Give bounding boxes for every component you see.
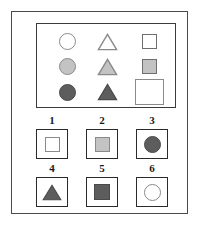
matrix-cell-r2c3	[131, 54, 167, 79]
white-triangle-icon	[97, 33, 118, 51]
option-4-number: 4	[34, 163, 70, 175]
option-2-box[interactable]	[86, 129, 118, 159]
matrix-cell-r3c2	[89, 79, 125, 105]
option-2[interactable]: 2	[84, 115, 120, 159]
light-gray-triangle-icon	[97, 58, 118, 76]
option-6[interactable]: 6	[134, 163, 170, 207]
option-5-box[interactable]	[86, 177, 118, 207]
matrix-cell-r1c2	[89, 29, 125, 54]
dark-gray-circle-icon	[144, 136, 161, 153]
white-square-icon	[142, 34, 157, 49]
option-3-box[interactable]	[136, 129, 168, 159]
matrix-cell-r2c2	[89, 54, 125, 79]
dark-gray-triangle-icon	[97, 83, 118, 101]
option-5[interactable]: 5	[84, 163, 120, 207]
option-4[interactable]: 4	[34, 163, 70, 207]
option-1-number: 1	[34, 115, 70, 127]
stimulus-matrix	[36, 23, 176, 108]
option-5-number: 5	[84, 163, 120, 175]
option-3[interactable]: 3	[134, 115, 170, 159]
matrix-cell-r1c1	[49, 29, 85, 54]
option-6-number: 6	[134, 163, 170, 175]
matrix-cell-r3c3-answer-slot[interactable]	[131, 79, 167, 105]
option-6-box[interactable]	[136, 177, 168, 207]
outer-frame: 1 2 3 4	[11, 11, 188, 214]
white-circle-icon	[144, 184, 161, 201]
dark-gray-square-icon	[94, 184, 110, 200]
light-gray-circle-icon	[59, 58, 76, 75]
option-3-number: 3	[134, 115, 170, 127]
option-1[interactable]: 1	[34, 115, 70, 159]
option-4-box[interactable]	[36, 177, 68, 207]
matrix-cell-r3c1	[49, 79, 85, 105]
white-square-icon	[45, 137, 60, 152]
dark-gray-triangle-icon	[42, 184, 62, 201]
puzzle-page: 1 2 3 4	[0, 0, 198, 225]
matrix-cell-r2c1	[49, 54, 85, 79]
empty-answer-box[interactable]	[135, 79, 164, 105]
dark-gray-circle-icon	[59, 84, 76, 101]
light-gray-square-icon	[142, 59, 157, 74]
option-2-number: 2	[84, 115, 120, 127]
light-gray-square-icon	[95, 137, 110, 152]
answer-options: 1 2 3 4	[29, 115, 177, 207]
white-circle-icon	[59, 33, 76, 50]
option-1-box[interactable]	[36, 129, 68, 159]
matrix-cell-r1c3	[131, 29, 167, 54]
